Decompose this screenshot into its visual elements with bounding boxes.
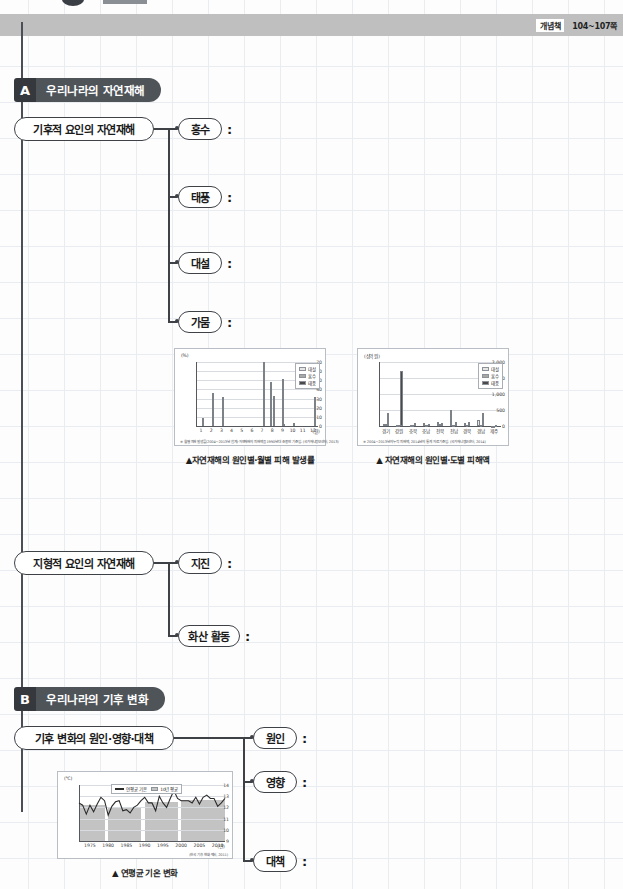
chart3-legend-area-swatch [151, 787, 158, 792]
chart2-gridline [379, 410, 501, 411]
chart1-bar [282, 379, 284, 426]
node-topographic-disasters: 지형적 요인의 자연재해 [14, 551, 154, 575]
chart2-legend-label: 대설 [491, 366, 499, 372]
chart2-xtick: 전남 [450, 428, 458, 434]
node-leaf-younghyang: 영향 [253, 771, 297, 793]
chart2-source: ※ 2004~2013년의 누적 피해액, 2014년의 통계 자료 기준임. … [363, 439, 486, 444]
chart3-legend-row: 10년 평균 [151, 786, 178, 792]
chart3-legend-row: 연평균 기온 [115, 786, 146, 792]
node-leaf-daeseol: 대설 [178, 252, 222, 274]
chart2-bar [400, 371, 402, 426]
chart2-bar [441, 423, 443, 426]
chart2-bar [450, 410, 452, 426]
chart1-gridline [196, 399, 318, 400]
chart2-gridline [379, 394, 501, 395]
section-a-title: 우리나라의 자연재해 [36, 78, 161, 102]
chart2-legend-label: 홍수 [491, 373, 499, 379]
chart1-legend-swatch [299, 374, 306, 379]
chart1-bar [293, 423, 295, 426]
chart2-xtick: 충남 [422, 428, 430, 434]
chart1-xtick: 6 [250, 428, 253, 433]
node-climate-change-topic: 기후 변화의 원인·영향·대책 [14, 726, 174, 750]
figure-annual-temperature: 91011121314(℃)19751980198519901995200020… [57, 771, 233, 878]
header-book-tag: 개념책 [536, 19, 564, 32]
chart2-legend-swatch [482, 374, 489, 379]
figure-1-caption: ▲자연재해의 원인별·월별 피해 발생률 [174, 453, 326, 465]
node-leaf-gamum: 가뭄 [178, 311, 222, 333]
section-b-title: 우리나라의 기후 변화 [36, 687, 165, 711]
figure-3-frame: 91011121314(℃)19751980198519901995200020… [57, 771, 233, 859]
chart1-source: ※ 월별 피해 발생률(2004~2013년 합계)·자연재해의 피해액을 19… [180, 439, 339, 444]
chart1-legend-swatch [299, 381, 306, 386]
chart1-xtick: 8 [271, 428, 274, 433]
node-leaf-jijin: 지진 [178, 552, 222, 574]
chart2-xtick: 충북 [409, 428, 417, 434]
chart2-bar [428, 424, 430, 426]
colon-jijin: : [227, 557, 232, 570]
chart1-bar [212, 393, 214, 426]
chart1-xtick: 3 [220, 428, 223, 433]
chart2-bar [414, 423, 416, 426]
node-leaf-wonin: 원인 [253, 727, 297, 749]
chart2-legend-swatch [482, 381, 489, 386]
chart2-legend-row: 홍수 [482, 373, 499, 379]
page-header-band: 개념책 104~107쪽 [0, 14, 623, 36]
chart2-xtick: 경기 [382, 428, 390, 434]
chart1-bar [273, 396, 275, 426]
connector-a2-bus [168, 562, 170, 636]
chart3-legend: 연평균 기온10년 평균 [111, 784, 182, 794]
figure-1-frame: 010203040506070(%)123456789101112(월)대설홍수… [174, 348, 326, 446]
colon-gamum: : [227, 316, 232, 329]
chart1-xtick: 4 [230, 428, 233, 433]
chart1-bar [283, 424, 285, 426]
chart-monthly-damage: 010203040506070(%)123456789101112(월)대설홍수… [180, 353, 322, 443]
figure-2-frame: 05001,0001,5002,000(십억 원)경기강원충북충남전북전남경북경… [357, 348, 509, 446]
figure-3-caption: ▲ 연평균 기온 변화 [57, 866, 233, 878]
cut-off-badge [62, 0, 84, 6]
chart1-x-unit: (월) [312, 428, 320, 434]
chart1-legend-label: 대설 [308, 366, 316, 372]
chart2-legend-label: 태풍 [491, 380, 499, 386]
chart1-gridline [196, 389, 318, 390]
chart2-xtick: 전북 [436, 428, 444, 434]
chart1-legend-row: 대설 [299, 366, 316, 372]
colon-younghyang: : [302, 776, 307, 789]
chart2-legend-swatch [482, 367, 489, 372]
chart2-legend-row: 태풍 [482, 380, 499, 386]
chart1-gridline [196, 417, 318, 418]
chart1-xtick: 1 [200, 428, 203, 433]
colon-daechaek: : [302, 855, 307, 868]
chart2-xtick: 경남 [477, 428, 485, 434]
chart3-source: (한국 기후 변화 백서, 2011) [189, 852, 228, 857]
chart1-legend-row: 홍수 [299, 373, 316, 379]
chart1-gridline [196, 408, 318, 409]
chart2-legend: 대설홍수태풍 [478, 363, 503, 389]
connector-b1-bus [243, 737, 245, 860]
chart1-legend-label: 홍수 [308, 373, 316, 379]
cut-off-rule [103, 0, 147, 4]
chart1-legend: 대설홍수태풍 [295, 363, 320, 389]
node-climatic-disasters: 기후적 요인의 자연재해 [14, 117, 154, 141]
chart1-bar [270, 382, 272, 426]
connector-a1-bus [168, 128, 170, 321]
chart2-y-unit: (십억 원) [364, 353, 380, 359]
chart2-y-axis [379, 362, 380, 426]
figure-regional-damage: 05001,0001,5002,000(십억 원)경기강원충북충남전북전남경북경… [357, 348, 509, 465]
chart1-legend-label: 태풍 [308, 380, 316, 386]
section-a: A 우리나라의 자연재해 [14, 78, 161, 102]
chart-annual-temperature: 91011121314(℃)19751980198519901995200020… [63, 776, 229, 856]
chart2-ytick: 1,000 [491, 392, 506, 397]
chart1-legend-swatch [299, 367, 306, 372]
chart1-bar [202, 418, 204, 426]
section-b: B 우리나라의 기후 변화 [14, 687, 165, 711]
chart2-xtick: 강원 [395, 428, 403, 434]
chart1-legend-row: 태풍 [299, 380, 316, 386]
connector-b1-stem [174, 737, 245, 739]
chart1-xtick: 10 [290, 428, 296, 433]
chart1-bar [263, 362, 265, 426]
colon-wonin: : [302, 732, 307, 745]
chart2-bar [468, 422, 470, 426]
section-b-letter: B [14, 687, 36, 711]
section-a-letter: A [14, 78, 36, 102]
figure-monthly-damage: 010203040506070(%)123456789101112(월)대설홍수… [174, 348, 326, 465]
